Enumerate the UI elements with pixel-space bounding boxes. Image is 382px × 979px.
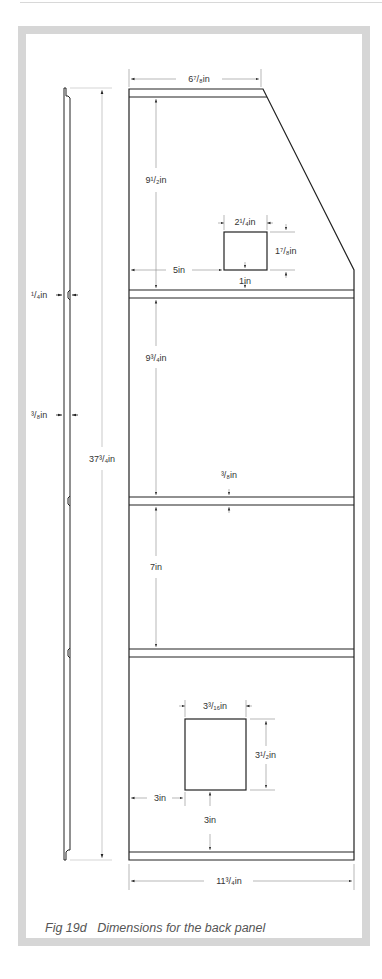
label-middle-section-height: 9³/₄in xyxy=(145,353,166,363)
large-opening xyxy=(185,719,246,790)
label-small-opening-left: 5in xyxy=(173,265,185,275)
label-overall-height: 37³/₄in xyxy=(89,454,115,464)
label-small-opening-height: 1⁷/₈in xyxy=(275,246,297,256)
label-lower-section-height: 7in xyxy=(150,562,162,572)
label-large-opening-bottom: 3in xyxy=(204,815,216,825)
small-opening xyxy=(224,232,267,270)
label-large-opening-width: 3³/₁₆in xyxy=(203,701,227,711)
caption-text: Dimensions for the back panel xyxy=(97,921,265,935)
label-top-width: 6⁷/₈in xyxy=(188,74,210,84)
label-overall-width: 11³/₄in xyxy=(216,876,242,886)
label-top-section-height: 9¹/₂in xyxy=(145,175,166,185)
side-profile xyxy=(64,88,70,860)
label-panel-thickness: ³/₈in xyxy=(31,410,47,420)
label-groove-depth: ¹/₄in xyxy=(31,290,47,300)
caption-number: Fig 19d xyxy=(45,921,87,935)
side-profile-ext-lines xyxy=(70,88,112,860)
label-large-opening-height: 3¹/₂in xyxy=(255,750,276,760)
figure-caption: Fig 19d Dimensions for the back panel xyxy=(45,921,265,935)
back-panel-diagram: 6⁷/₈in 9¹/₂in 2¹/₄in 1⁷/₈in 5in 1in ¹/₄i… xyxy=(0,0,382,979)
label-large-opening-left: 3in xyxy=(154,793,166,803)
label-rail-width: ³/₈in xyxy=(221,470,237,480)
label-small-opening-width: 2¹/₄in xyxy=(234,217,255,227)
main-panel xyxy=(129,89,354,860)
label-small-opening-bottom: 1in xyxy=(239,276,251,286)
